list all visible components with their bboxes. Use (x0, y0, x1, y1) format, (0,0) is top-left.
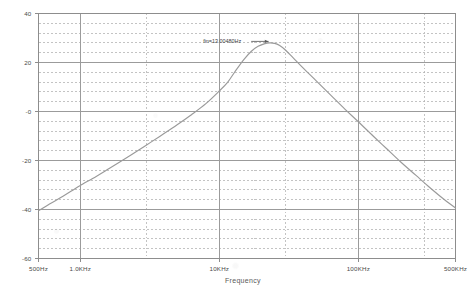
bode-magnitude-plot: 4020-0-20-40-60 500Hz1.0KHz10KHz100KHz50… (0, 0, 471, 289)
y-axis-tick-label: -60 (6, 255, 32, 262)
x-axis-title: Frequency (225, 277, 261, 284)
axis-tick-marks (35, 14, 456, 263)
plot-frame (39, 14, 456, 259)
x-axis-tick-label: 1.0KHz (50, 265, 110, 272)
x-axis-tick-label: 10KHz (189, 265, 249, 272)
minor-horizontal-gridlines (39, 23, 456, 248)
y-axis-tick-label: 20 (6, 59, 32, 66)
x-axis-tick-label: 100KHz (328, 265, 388, 272)
y-axis-tick-label: -40 (6, 206, 32, 213)
major-vertical-gridlines (80, 14, 358, 259)
peak-frequency-annotation: fin=13.00480Hz (203, 38, 241, 44)
response-curve (39, 43, 456, 211)
major-horizontal-gridlines (39, 63, 456, 210)
y-axis-tick-label: -20 (6, 157, 32, 164)
y-axis-tick-label: 40 (6, 10, 32, 17)
y-axis-tick-label: -0 (6, 108, 32, 115)
x-axis-tick-label: 500KHz (426, 265, 471, 272)
